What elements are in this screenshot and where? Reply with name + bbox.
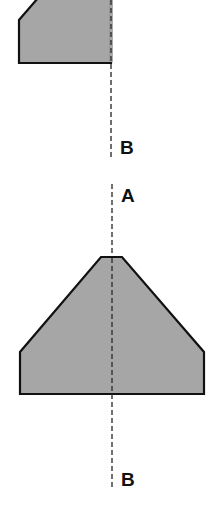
cut-label-b-upper: B — [120, 138, 134, 157]
cut-label-b-lower: B — [121, 470, 135, 489]
upper-half-section-shape — [19, 0, 111, 63]
cut-label-a: A — [121, 186, 135, 205]
diagram-canvas — [0, 0, 219, 508]
